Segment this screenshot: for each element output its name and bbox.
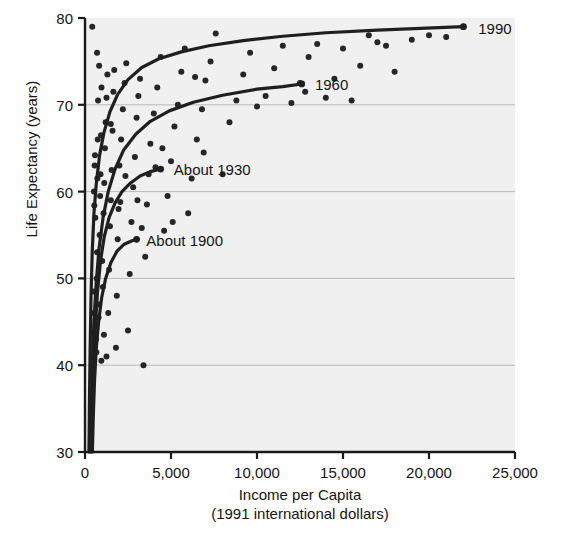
x-tick-label: 0 [81,464,89,481]
y-tick-label: 50 [56,270,73,287]
y-tick-label: 70 [56,97,73,114]
y-axis-label: Life Expectancy (years) [23,49,41,269]
x-tick-label: 10,000 [234,464,280,481]
y-tick-label: 40 [56,357,73,374]
x-axis-label-sub: (1991 international dollars) [85,504,515,523]
life-expectancy-income-chart: 30405060708005,00010,00015,00020,00025,0… [0,0,561,539]
chart-canvas: 30405060708005,00010,00015,00020,00025,0… [0,0,561,539]
y-tick-label: 60 [56,184,73,201]
x-tick-label: 15,000 [320,464,366,481]
x-tick-label: 20,000 [406,464,452,481]
x-tick-label: 5,000 [152,464,190,481]
x-axis-label-main: Income per Capita [85,485,515,504]
y-axis-label-text: Life Expectancy (years) [23,81,40,238]
series-label-about-1900: About 1900 [146,232,223,249]
x-tick-label: 25,000 [492,464,538,481]
series-label-1990: 1990 [478,20,511,37]
series-label-about-1930: About 1930 [174,161,251,178]
y-tick-label: 30 [56,444,73,461]
series-label-1960: 1960 [315,76,348,93]
y-tick-label: 80 [56,10,73,27]
x-axis-label: Income per Capita (1991 international do… [85,485,515,523]
